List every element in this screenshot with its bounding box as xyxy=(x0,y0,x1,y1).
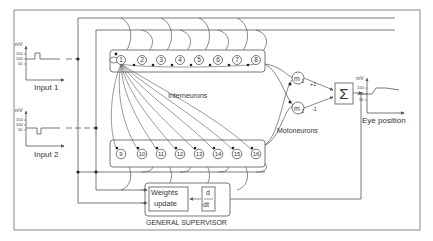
eye-position-plot xyxy=(362,78,404,113)
input-1-tick-50: 50 xyxy=(18,62,22,66)
svg-text:m: m xyxy=(294,75,300,82)
neuron-7: 7 xyxy=(233,56,242,65)
general-supervisor-label: GENERAL SUPERVISOR xyxy=(146,219,227,226)
svg-text:3: 3 xyxy=(159,56,163,63)
weight-plus-one: +1 xyxy=(310,81,316,87)
svg-text:1: 1 xyxy=(119,56,123,63)
bus-lines xyxy=(78,18,395,203)
neuron-11: 11 xyxy=(156,149,166,159)
neuron-2: 2 xyxy=(138,56,147,65)
svg-text:2: 2 xyxy=(140,56,144,63)
svg-text:12: 12 xyxy=(177,151,184,157)
weights-update-line2: update xyxy=(154,200,177,208)
motoneurons-label: Motoneurons xyxy=(277,127,318,134)
svg-text:10: 10 xyxy=(139,151,146,157)
svg-text:16: 16 xyxy=(253,151,260,157)
svg-text:m: m xyxy=(294,105,300,112)
input-2-label: Input 2 xyxy=(34,151,58,159)
svg-text:13: 13 xyxy=(196,151,203,157)
fan-out-connections xyxy=(111,64,256,150)
svg-text:15: 15 xyxy=(234,151,241,157)
input-2-tick-50: 50 xyxy=(18,128,22,132)
neuron-6: 6 xyxy=(214,56,223,65)
neuron-4: 4 xyxy=(176,56,185,65)
input-1-label: Input 1 xyxy=(34,84,58,92)
neuron-10: 10 xyxy=(137,149,147,159)
neuron-1: 1 xyxy=(117,56,126,65)
svg-text:8: 8 xyxy=(254,56,258,63)
motoneuron-m2: m 2 xyxy=(292,102,305,114)
neuron-3: 3 xyxy=(157,56,166,65)
eye-axis-unit: mV xyxy=(356,76,364,81)
weights-update-line1: Weights xyxy=(151,189,178,197)
interneurons-label: Interneurons xyxy=(168,92,207,99)
svg-text:7: 7 xyxy=(235,56,239,63)
eye-position-label: Eye position xyxy=(362,117,406,125)
input-2-axis-unit: mV xyxy=(15,108,23,113)
summation-node: Σ xyxy=(335,83,353,104)
weight-minus-one: -1 xyxy=(312,106,317,112)
derivative-denominator: dt xyxy=(203,201,209,208)
eye-tick-50: 50 xyxy=(359,98,363,102)
neuron-14: 14 xyxy=(213,149,223,159)
neuron-9: 9 xyxy=(116,149,126,159)
eye-tick-100: 100 xyxy=(357,92,364,96)
svg-text:11: 11 xyxy=(158,151,165,157)
neuron-16: 16 xyxy=(251,149,261,159)
neuron-8: 8 xyxy=(252,56,261,65)
input-1-plot xyxy=(24,46,78,80)
svg-text:6: 6 xyxy=(216,56,220,63)
derivative-numerator: d xyxy=(206,189,210,196)
svg-text:5: 5 xyxy=(197,56,201,63)
neuron-13: 13 xyxy=(194,149,204,159)
input-1-axis-unit: mV xyxy=(15,42,23,47)
svg-text:4: 4 xyxy=(178,56,182,63)
eye-tick-150: 150 xyxy=(357,86,364,90)
motoneuron-m1: m 1 xyxy=(292,72,305,84)
input-2-plot xyxy=(24,111,96,146)
svg-text:14: 14 xyxy=(215,151,222,157)
neuron-15: 15 xyxy=(232,149,242,159)
svg-text:Σ: Σ xyxy=(339,85,348,102)
neuron-5: 5 xyxy=(195,56,204,65)
neuron-12: 12 xyxy=(175,149,185,159)
